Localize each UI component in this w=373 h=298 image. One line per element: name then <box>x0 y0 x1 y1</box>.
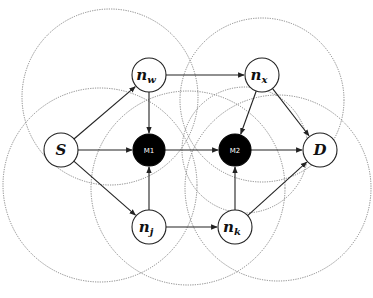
node-label: M1 <box>144 147 155 155</box>
region-circle <box>91 91 285 285</box>
node-M1: M1 <box>133 134 165 166</box>
edge-nx-D <box>272 88 309 135</box>
node-label: D <box>312 141 326 159</box>
network-diagram: SnwnxM1M2Dnjnk <box>0 0 373 298</box>
node-nj: nj <box>132 210 166 244</box>
node-label: S <box>56 141 67 159</box>
node-nx: nx <box>245 58 279 92</box>
node-nw: nw <box>132 58 166 92</box>
edge-S-nj <box>74 161 136 215</box>
node-D: D <box>303 133 337 167</box>
node-S: S <box>44 133 78 167</box>
node-nk: nk <box>218 210 252 244</box>
edges <box>74 75 309 227</box>
node-M2: M2 <box>219 134 251 166</box>
node-label: M2 <box>230 147 241 155</box>
edge-nx-M2 <box>241 91 256 134</box>
edge-nk-D <box>248 162 307 216</box>
